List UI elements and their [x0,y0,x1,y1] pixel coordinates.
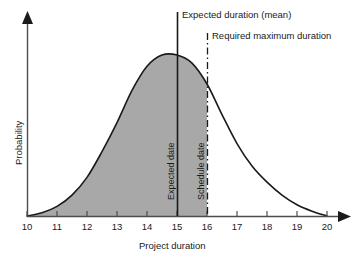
x-axis-title: Project duration [139,241,206,251]
x-axis-tick-label: 20 [317,222,337,232]
x-axis-tick-label: 10 [17,222,37,232]
x-axis-arrow-icon [338,211,351,222]
x-axis-tick-label: 16 [197,222,217,232]
expected-duration-callout: Expected duration (mean) [182,10,291,20]
x-axis-tick-label: 13 [107,222,127,232]
required-maximum-duration-callout: Required maximum duration [212,31,331,41]
y-axis-title: Probability [14,121,24,165]
y-axis-arrow-icon [22,11,33,24]
probability-distribution-chart: Expected duration (mean) Required maximu… [0,0,362,261]
x-axis-tick-label: 15 [167,222,187,232]
x-axis-tick-label: 12 [77,222,97,232]
x-axis-tick-label: 14 [137,222,157,232]
expected-date-label: Expected date [166,142,176,200]
x-axis-tick-label: 17 [227,222,247,232]
schedule-date-label: Schedule date [196,142,206,200]
x-axis-tick-label: 11 [47,222,67,232]
x-axis-tick-label: 18 [257,222,277,232]
x-axis-tick-label: 19 [287,222,307,232]
